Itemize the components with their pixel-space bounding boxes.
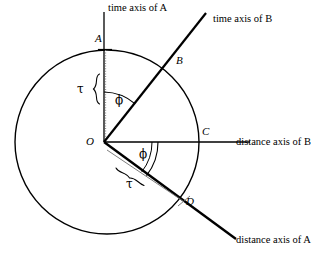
distance-axis-a-line	[104, 142, 236, 239]
distance-axis-a-label: distance axis of A	[236, 235, 311, 246]
relativity-axes-diagram: time axis of A time axis of B distance a…	[0, 0, 327, 257]
tau-label-lower: τ	[126, 178, 133, 190]
time-axis-a-label: time axis of A	[108, 3, 167, 14]
tau-brace-upper	[94, 74, 100, 104]
point-c-label: C	[202, 126, 209, 137]
phi-label-upper: ϕ	[115, 94, 123, 106]
point-b-label: B	[176, 55, 183, 66]
phi-label-lower: ϕ	[139, 148, 147, 160]
point-d-label: D	[186, 196, 194, 207]
origin-label: O	[86, 136, 94, 147]
point-a-label: A	[95, 33, 102, 44]
tau-label-upper: τ	[77, 83, 84, 95]
time-axis-b-line	[104, 13, 206, 142]
distance-axis-b-label: distance axis of B	[236, 137, 311, 148]
time-axis-b-label: time axis of B	[213, 14, 272, 25]
diagram-canvas	[0, 0, 327, 257]
